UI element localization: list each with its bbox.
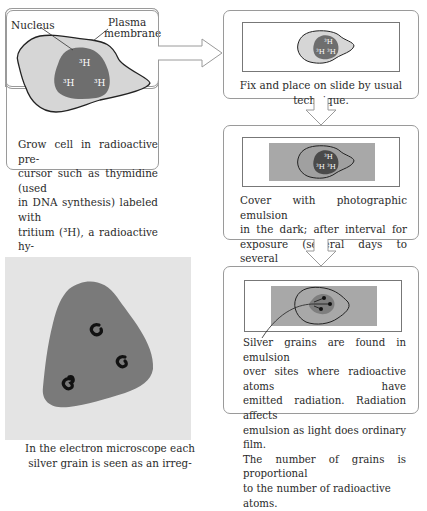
covered-cell-illustration: ³H ³H ³H [294,143,358,181]
svg-text:³H: ³H [324,153,333,161]
fixed-cell-illustration: ³H ³H ³H [294,28,358,66]
arrow-down-icon [304,98,338,126]
em-cell-illustration [5,257,191,440]
svg-text:³H: ³H [327,48,336,56]
step4-text-line: The number of grains is proportional [243,453,406,482]
step3-text-line: in the dark; after interval for [240,222,407,237]
step4-description: Silver grains are found in emulsion over… [243,336,406,511]
step4-text-line: emitted radiation. Radiation affects [243,394,406,423]
svg-text:³H: ³H [324,38,333,46]
em-caption-line: In the electron microscope each [22,441,198,456]
step4-text-line: over sites where radioactive atoms have [243,365,406,394]
step4-text-line: to the number of radioactive atoms. [243,482,406,511]
svg-text:³H: ³H [316,163,325,171]
step1-text-line: Grow cell in radioactive pre- [18,137,158,166]
step4-text-line: Silver grains are found in emulsion [243,336,406,365]
em-caption-line: silver grain is seen as an irreg- [22,456,198,471]
em-caption: In the electron microscope each silver g… [22,441,198,470]
svg-text:³H: ³H [316,48,325,56]
arrow-down-icon [304,239,338,267]
step1-text-line: in DNA synthesis) labeled with [18,195,158,224]
step4-text-line: emulsion as light does ordinary film. [243,424,406,453]
step1-description: Grow cell in radioactive pre- cursor suc… [18,137,158,268]
arrow-right-icon [158,38,224,68]
step1-text-line: tritium (³H), a radioactive hy- [18,225,158,254]
step1-text-line: cursor such as thymidine (used [18,166,158,195]
svg-text:³H: ³H [327,163,336,171]
step3-text-line: Cover with photographic emulsion [240,193,407,222]
